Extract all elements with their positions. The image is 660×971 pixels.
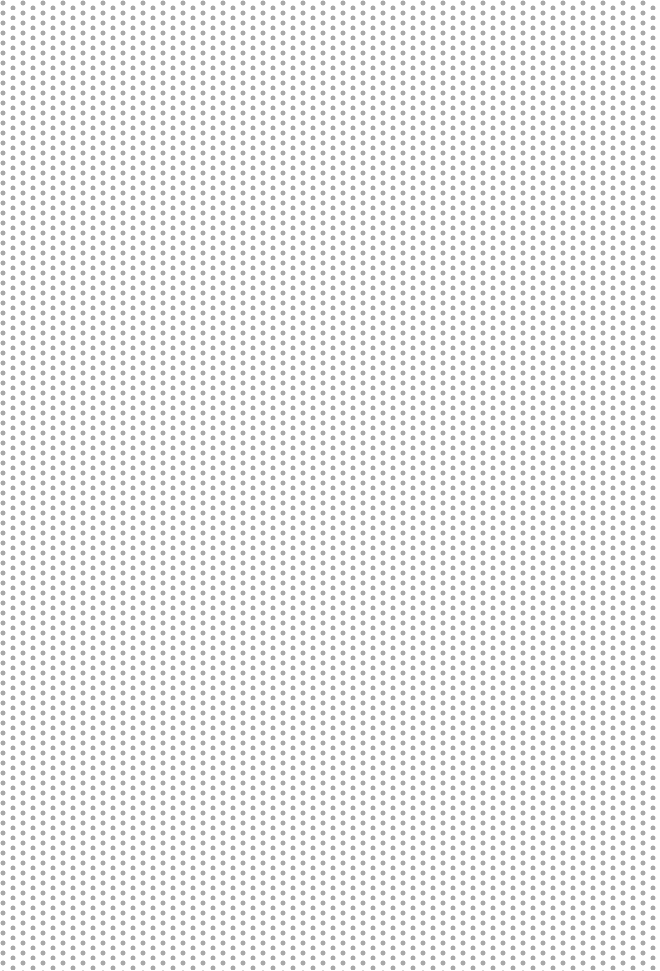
dot-pattern-background [0,0,660,971]
